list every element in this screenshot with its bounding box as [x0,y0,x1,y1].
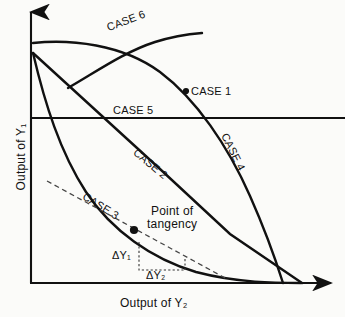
delta-y1-text: ΔY₁ [112,249,131,261]
delta-y2-text: ΔY₂ [146,269,166,281]
tangency-point-marker [130,226,138,234]
case-label-1: CASE 1 [191,85,231,97]
case-label-5: CASE 5 [113,104,153,116]
transformation-curves-plot [0,0,345,317]
point-of-tangency-line2: tangency [147,218,197,231]
point-of-tangency-label: Point of tangency [147,205,197,231]
curve-case3 [33,53,301,283]
case-label-1-text: CASE 1 [191,85,231,97]
x-axis-label-text: Output of Y₂ [120,296,188,310]
case1-point-marker [183,88,189,94]
delta-y1-label: ΔY₁ [112,249,131,261]
y-axis-label-text: Output of Y₁ [14,124,28,191]
case-label-5-text: CASE 5 [113,104,153,116]
delta-y2-label: ΔY₂ [146,269,166,281]
curve-case6 [68,33,202,88]
y-axis-label: Output of Y₁ [14,112,28,202]
x-axis-label: Output of Y₂ [120,296,188,310]
figure-canvas: Output of Y₁ Output of Y₂ CASE 6 CASE 1 … [0,0,345,317]
